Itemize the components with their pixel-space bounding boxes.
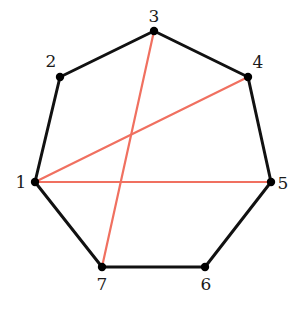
vertex-label-3: 3: [149, 6, 160, 26]
polygon-vertices: [31, 27, 275, 271]
vertex-label-2: 2: [46, 51, 57, 71]
edge-4-5: [248, 77, 271, 182]
vertex-label-5: 5: [278, 173, 289, 193]
polygon-edges: [35, 31, 271, 267]
vertex-labels: 1234567: [16, 6, 289, 294]
edge-3-4: [154, 31, 248, 77]
diagonal-chords: [35, 31, 271, 267]
vertex-label-6: 6: [201, 274, 212, 294]
edge-1-2: [35, 77, 60, 182]
edge-5-6: [205, 182, 271, 267]
vertex-label-4: 4: [253, 52, 264, 72]
vertex-6: [201, 263, 209, 271]
heptagon-diagram: 1234567: [0, 0, 299, 313]
vertex-7: [98, 263, 106, 271]
vertex-4: [244, 73, 252, 81]
chord-3-7: [102, 31, 154, 267]
vertex-label-1: 1: [16, 172, 27, 192]
edge-2-3: [60, 31, 154, 77]
vertex-1: [31, 178, 39, 186]
vertex-label-7: 7: [97, 274, 108, 294]
vertex-3: [150, 27, 158, 35]
vertex-2: [56, 73, 64, 81]
vertex-5: [267, 178, 275, 186]
edge-7-1: [35, 182, 102, 267]
